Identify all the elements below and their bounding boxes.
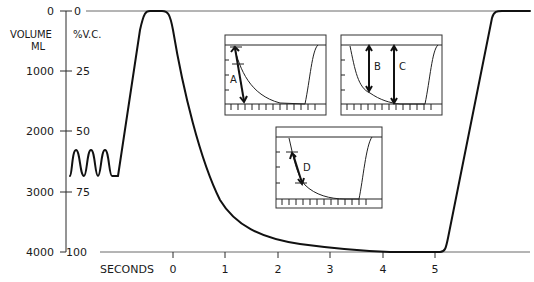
sec-tick-0: 0 (170, 263, 177, 276)
pct-tick-100: 100 (66, 246, 87, 259)
x-axis-title: SECONDS (100, 263, 154, 276)
sec-tick-2: 2 (275, 263, 282, 276)
pct-tick-50: 50 (76, 125, 90, 138)
inset-d: D (276, 127, 382, 208)
ml-tick-1000: 1000 (26, 65, 54, 78)
inset-a-label: A (230, 74, 237, 85)
inset-b-label: B (374, 61, 381, 72)
inset-d-label: D (303, 162, 311, 173)
x-axis: SECONDS 0 1 2 3 4 5 (100, 252, 439, 276)
sec-tick-1: 1 (222, 263, 229, 276)
inset-a: A (225, 35, 326, 115)
pct-tick-25: 25 (76, 65, 90, 78)
ml-tick-3000: 3000 (26, 186, 54, 199)
y-axis-title-pct-vc: %V.C. (73, 29, 101, 40)
ml-tick-0: 0 (47, 5, 54, 18)
pct-tick-0: 0 (74, 5, 81, 18)
sec-tick-3: 3 (327, 263, 334, 276)
ml-tick-2000: 2000 (26, 125, 54, 138)
inset-bc: B C (341, 35, 442, 115)
y-axis-title-volume: VOLUME (10, 29, 52, 40)
ml-tick-4000: 4000 (26, 246, 54, 259)
y-axis: 0 1000 2000 3000 4000 0 25 50 75 100 VOL… (10, 5, 101, 259)
spirogram-chart: 0 1000 2000 3000 4000 0 25 50 75 100 VOL… (0, 0, 534, 282)
pct-tick-75: 75 (76, 186, 90, 199)
y-axis-title-ml: ML (31, 41, 46, 52)
sec-tick-5: 5 (432, 263, 439, 276)
sec-tick-4: 4 (380, 263, 387, 276)
inset-c-label: C (399, 61, 406, 72)
